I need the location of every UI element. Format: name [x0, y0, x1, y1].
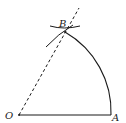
dashed-ray-ob — [19, 8, 79, 115]
arc-ab — [65, 32, 111, 115]
point-b-dot — [64, 31, 66, 33]
geometry-diagram: O A B — [0, 0, 126, 123]
point-o-dot — [18, 114, 20, 116]
label-o: O — [5, 110, 13, 121]
label-a: A — [111, 112, 119, 123]
label-b: B — [58, 18, 66, 29]
